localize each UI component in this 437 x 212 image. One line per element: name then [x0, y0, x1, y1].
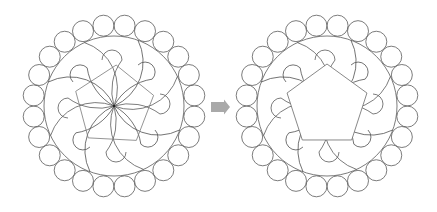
ring-circle — [23, 85, 44, 106]
ring-circle — [242, 127, 263, 148]
swirl-petal — [84, 43, 122, 106]
ring-circle — [391, 127, 412, 148]
ring-circle — [29, 65, 50, 86]
ring-circle — [252, 145, 273, 166]
ring-circle — [184, 106, 205, 127]
ring-circle — [73, 170, 94, 191]
ring-circle — [286, 21, 307, 42]
pentagon — [287, 64, 367, 140]
ring-circle — [327, 15, 348, 36]
ring-circle — [391, 65, 412, 86]
ring-circle — [168, 46, 189, 67]
ring-circle — [184, 85, 205, 106]
ring-circle — [93, 176, 114, 197]
panel-before — [23, 15, 205, 197]
ring-circle — [381, 46, 402, 67]
ring-circle — [236, 106, 257, 127]
ring-circle — [178, 65, 199, 86]
ring-circle — [397, 85, 418, 106]
ring-circle — [306, 176, 327, 197]
ring-circle — [306, 15, 327, 36]
ring-circle — [327, 176, 348, 197]
ring-circle — [23, 106, 44, 127]
pentagon — [76, 65, 154, 140]
ring-circle — [135, 170, 156, 191]
panel-after — [236, 15, 418, 197]
diagram-canvas — [0, 0, 437, 212]
ring-circle — [366, 160, 387, 181]
ring-circle — [29, 127, 50, 148]
swirl-petal — [114, 76, 177, 114]
ring-circle — [348, 170, 369, 191]
ring-circle — [114, 15, 135, 36]
ring-circle — [178, 127, 199, 148]
swirl-petal — [48, 55, 119, 126]
swirl-petal — [106, 106, 144, 169]
ring-circle — [267, 31, 288, 52]
ring-circle — [286, 170, 307, 191]
ring-circle — [114, 176, 135, 197]
swirl-petal — [93, 40, 164, 111]
ring-circle — [93, 15, 114, 36]
ring-circle — [397, 106, 418, 127]
ring-circle — [73, 21, 94, 42]
ring-circle — [348, 21, 369, 42]
ring-circle — [242, 65, 263, 86]
ring-circle — [39, 145, 60, 166]
ring-circle — [54, 31, 75, 52]
ring-circle — [236, 85, 257, 106]
ring-circle — [135, 21, 156, 42]
swirl-petal — [63, 100, 134, 171]
arrow-right-icon — [211, 100, 230, 115]
ring-circle — [153, 160, 174, 181]
center-point — [113, 105, 115, 107]
